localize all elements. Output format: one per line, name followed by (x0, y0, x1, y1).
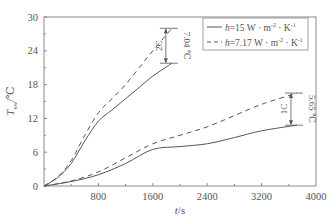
series-line (44, 28, 172, 186)
annotation-1c: 1C5.65 ℃ (279, 93, 317, 125)
legend: h=15 W · m-2 · K-1 h=7.17 W · m-2 · K-1 (203, 18, 308, 50)
x-tick-label: 4000 (306, 191, 327, 202)
x-axis-label: t/s (175, 204, 185, 216)
x-tick-label: 800 (91, 191, 107, 202)
x-tick-label: 2400 (197, 191, 218, 202)
legend-dashed-label: h=7.17 W · m-2 · K-1 (225, 37, 303, 48)
y-tick-label: 12 (28, 113, 39, 124)
y-tick-label: 24 (28, 45, 39, 56)
y-tick-label: 30 (28, 12, 39, 23)
temperature-chart: 0612182430 8001600240032004000 2C7.04 ℃ … (0, 0, 334, 221)
y-tick-label: 18 (28, 79, 39, 90)
series-line (44, 125, 297, 186)
y-axis-label: Tsw/℃ (4, 86, 19, 115)
y-tick-label: 6 (33, 147, 38, 158)
annotation-rate-label: 2C (154, 40, 164, 51)
annotation-difference-label: 7.04 ℃ (182, 32, 192, 60)
x-tick-label: 3200 (251, 191, 272, 202)
legend-solid-label: h=15 W · m-2 · K-1 (225, 22, 296, 33)
annotation-rate-label: 1C (279, 104, 289, 115)
data-series (44, 28, 297, 186)
y-tick-label: 0 (33, 181, 38, 192)
annotation-2c: 2C7.04 ℃ (154, 28, 192, 63)
series-line (44, 93, 297, 186)
x-tick-label: 1600 (142, 191, 163, 202)
annotation-difference-label: 5.65 ℃ (307, 95, 317, 123)
